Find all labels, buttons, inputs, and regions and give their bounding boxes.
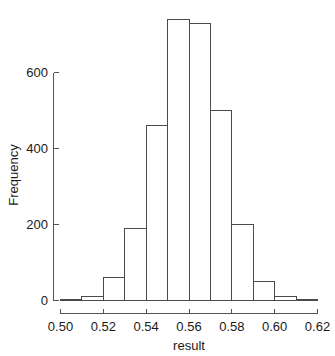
- histogram-figure: 0.500.520.540.560.580.600.62 0200400600 …: [0, 0, 335, 356]
- x-tick-label: 0.50: [48, 319, 73, 334]
- bars-group: [61, 19, 318, 300]
- x-tick-label: 0.56: [176, 319, 201, 334]
- y-tick-label: 600: [26, 65, 48, 80]
- x-tick-marks: [61, 309, 318, 314]
- y-tick-labels: 0200400600: [26, 65, 48, 308]
- histogram-bar: [61, 300, 82, 301]
- histogram-bar: [146, 126, 167, 301]
- histogram-bar: [168, 19, 189, 300]
- y-tick-label: 0: [41, 293, 48, 308]
- plot-canvas: 0.500.520.540.560.580.600.62 0200400600 …: [0, 0, 335, 356]
- x-tick-label: 0.62: [305, 319, 330, 334]
- histogram-bar: [125, 228, 146, 300]
- x-tick-label: 0.52: [91, 319, 116, 334]
- x-tick-labels: 0.500.520.540.560.580.600.62: [48, 319, 330, 334]
- histogram-bar: [103, 278, 124, 301]
- histogram-bar: [82, 297, 103, 301]
- histogram-bar: [232, 225, 253, 301]
- histogram-bar: [210, 111, 231, 301]
- y-tick-label: 200: [26, 217, 48, 232]
- x-tick-label: 0.58: [219, 319, 244, 334]
- x-tick-label: 0.60: [262, 319, 287, 334]
- histogram-bar: [253, 282, 274, 301]
- histogram-bar: [189, 23, 210, 300]
- histogram-bar: [296, 300, 317, 301]
- y-tick-label: 400: [26, 141, 48, 156]
- y-tick-marks: [54, 73, 59, 301]
- y-axis-title: Frequency: [6, 144, 21, 206]
- x-axis-title: result: [173, 338, 205, 353]
- histogram-bar: [275, 297, 296, 301]
- x-tick-label: 0.54: [134, 319, 159, 334]
